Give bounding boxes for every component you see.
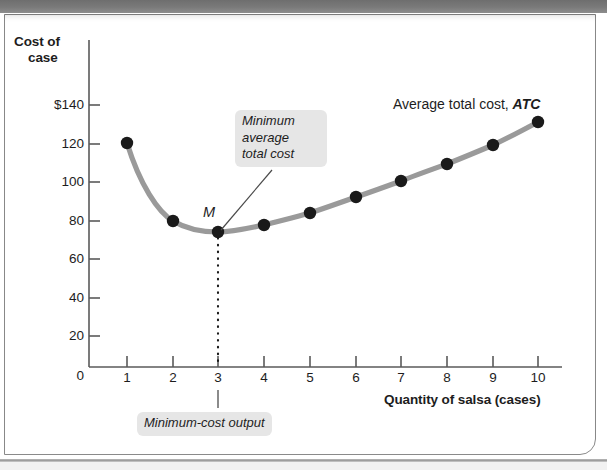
y-tick-label-60: 60 — [10, 251, 84, 267]
x-tick-label-8: 8 — [432, 370, 462, 386]
y-tick-label-80: 80 — [10, 213, 84, 229]
x-tick-label-3: 3 — [203, 370, 233, 386]
y-axis-title: Cost ofcase — [14, 34, 80, 66]
annotation-minimum-average-total-cost: Minimum average total cost — [235, 110, 327, 167]
y-axis-title-line1: Cost of — [14, 34, 60, 49]
y-axis-ticks — [89, 105, 100, 336]
x-tick-label-2: 2 — [158, 370, 188, 386]
series-label-atc: Average total cost, ATC — [393, 96, 540, 113]
annotation-minimum-cost-output: Minimum-cost output — [137, 412, 272, 436]
x-tick-label-10: 10 — [523, 370, 553, 386]
y-axis-title-line2: case — [14, 50, 58, 66]
point-label-m: M — [203, 204, 215, 221]
x-tick-label-6: 6 — [341, 370, 371, 386]
x-tick-label-4: 4 — [249, 370, 279, 386]
data-point — [532, 116, 544, 128]
data-point — [395, 175, 407, 187]
x-tick-label-7: 7 — [386, 370, 416, 386]
x-tick-label-1: 1 — [112, 370, 142, 386]
data-point — [304, 207, 316, 219]
series-label-emphasis: ATC — [513, 96, 541, 112]
y-tick-label-0: 0 — [10, 368, 84, 384]
data-point — [350, 191, 362, 203]
data-point — [441, 158, 453, 170]
data-point — [487, 139, 499, 151]
data-point — [167, 215, 179, 227]
data-point — [121, 137, 133, 149]
data-point — [258, 219, 270, 231]
series-label-text: Average total cost, — [393, 96, 513, 112]
y-tick-label-20: 20 — [10, 328, 84, 344]
data-point-markers — [121, 116, 544, 238]
atc-curve — [127, 122, 538, 232]
x-tick-label-9: 9 — [478, 370, 508, 386]
x-axis-ticks — [127, 356, 538, 367]
y-tick-label-120: 120 — [10, 136, 84, 152]
x-axis-title: Quantity of salsa (cases) — [384, 392, 541, 408]
figure-screenshot: Cost ofcase $140 120 100 80 60 40 20 0 1… — [0, 0, 607, 470]
y-tick-label-40: 40 — [10, 290, 84, 306]
y-tick-label-140: $140 — [10, 97, 84, 113]
y-tick-label-100: 100 — [10, 174, 84, 190]
x-tick-label-5: 5 — [295, 370, 325, 386]
